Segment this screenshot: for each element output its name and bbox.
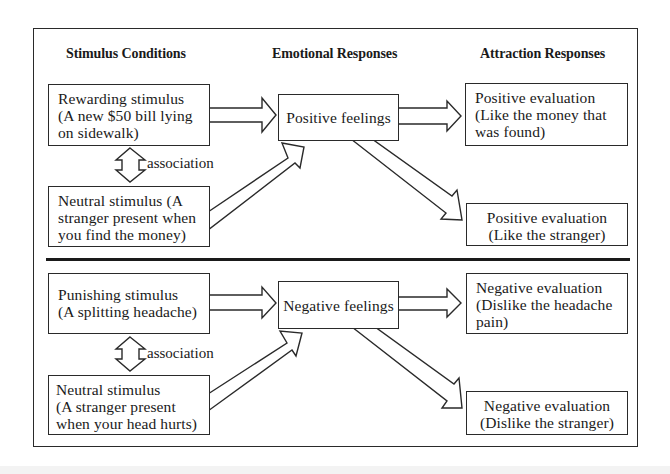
negative-evaluation-headache-box: Negative evaluation (Dislike the headach… bbox=[466, 273, 628, 334]
rewarding-stimulus-box: Rewarding stimulus (A new $50 bill lying… bbox=[48, 84, 210, 146]
association-label: association bbox=[147, 345, 214, 362]
punishing-stimulus-box: Punishing stimulus (A splitting headache… bbox=[48, 273, 210, 334]
neutral-stimulus-box-negative: Neutral stimulus (A stranger present whe… bbox=[48, 375, 210, 435]
header-stimulus-conditions: Stimulus Conditions bbox=[66, 46, 186, 62]
page-bottom-band bbox=[0, 466, 670, 474]
negative-feelings-box: Negative feelings bbox=[278, 281, 399, 329]
association-label: association bbox=[147, 155, 214, 172]
header-attraction-responses: Attraction Responses bbox=[480, 46, 605, 62]
header-emotional-responses: Emotional Responses bbox=[272, 46, 397, 62]
neutral-stimulus-box-positive: Neutral stimulus (A stranger present whe… bbox=[48, 186, 210, 247]
positive-evaluation-money-box: Positive evaluation (Like the money that… bbox=[465, 83, 628, 146]
positive-feelings-box: Positive feelings bbox=[278, 94, 399, 141]
positive-evaluation-stranger-box: Positive evaluation (Like the stranger) bbox=[466, 203, 628, 246]
panel-separator bbox=[46, 258, 630, 261]
negative-evaluation-stranger-box: Negative evaluation (Dislike the strange… bbox=[466, 391, 628, 435]
